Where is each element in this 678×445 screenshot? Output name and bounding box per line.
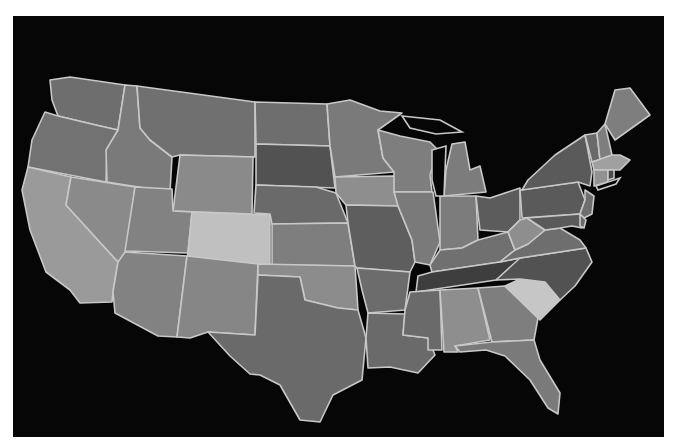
state-wy[interactable]: Wyoming xyxy=(173,155,253,214)
state-nm[interactable]: New Mexico xyxy=(177,256,258,338)
state-ri[interactable]: Rhode Island xyxy=(608,170,614,180)
state-oh[interactable]: Ohio xyxy=(476,188,520,232)
state-az[interactable]: Arizona xyxy=(113,252,187,337)
state-in[interactable]: Indiana xyxy=(440,196,478,250)
state-ar[interactable]: Arkansas xyxy=(357,268,410,313)
state-mi[interactable]: Michigan xyxy=(444,142,486,196)
lake-superior xyxy=(402,116,462,134)
state-fl[interactable]: Florida xyxy=(455,340,560,414)
state-me[interactable]: Maine xyxy=(605,88,650,140)
state-sd[interactable]: South Dakota xyxy=(256,144,335,188)
states-layer: WashingtonOregonCaliforniaNevadaIdahoMon… xyxy=(22,77,650,422)
state-ny[interactable]: New York xyxy=(522,135,592,190)
state-nd[interactable]: North Dakota xyxy=(255,102,330,146)
state-ks[interactable]: Kansas xyxy=(272,223,355,266)
us-choropleth-map: WashingtonOregonCaliforniaNevadaIdahoMon… xyxy=(0,0,678,445)
lake-michigan xyxy=(432,146,446,196)
